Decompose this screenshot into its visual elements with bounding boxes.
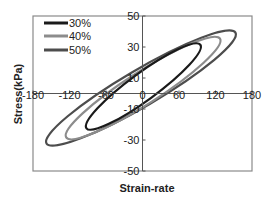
y-tick-label: 30 [127, 41, 139, 53]
y-tick-label: 10 [127, 72, 139, 84]
x-tick-label: 0 [139, 89, 145, 101]
legend-label-50: 50% [69, 44, 91, 56]
x-tick-label: 180 [243, 89, 261, 101]
y-axis-title: Stress(kPa) [12, 63, 24, 124]
y-tick-label: -50 [124, 165, 140, 177]
x-tick-label: -180 [22, 89, 44, 101]
y-tick-label: -10 [124, 103, 140, 115]
x-tick-label: 120 [206, 89, 224, 101]
legend: 30% 40% 50% [44, 17, 91, 56]
y-tick-label: 50 [127, 10, 139, 22]
x-tick-label: -120 [58, 89, 80, 101]
x-tick-label: -60 [98, 89, 114, 101]
y-tick-label: -30 [124, 134, 140, 146]
x-tick-label: 60 [173, 89, 185, 101]
legend-label-30: 30% [69, 17, 91, 29]
stress-strain-chart: -180-120-60060120180503010-10-30-50 30% … [0, 0, 273, 202]
legend-label-40: 40% [69, 30, 91, 42]
x-axis-title: Strain-rate [119, 182, 174, 194]
